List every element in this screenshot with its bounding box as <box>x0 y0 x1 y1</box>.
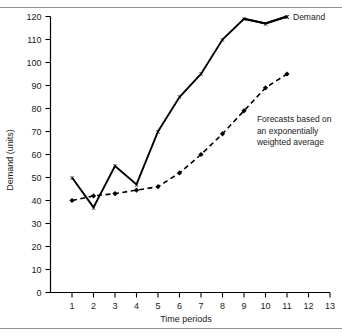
demand-point-marker: x <box>156 127 160 136</box>
x-tick-label: 7 <box>198 301 203 311</box>
demand-point-marker: x <box>92 203 96 212</box>
y-tick-label: 10 <box>31 265 41 275</box>
demand-point-marker: x <box>199 69 203 78</box>
demand-series-markers: xxxxxxxxxxx <box>70 12 289 212</box>
y-tick-label: 30 <box>31 219 41 229</box>
x-tick-label: 10 <box>260 301 270 311</box>
demand-forecast-line-chart: 0102030405060708090100110120 12345678910… <box>0 0 342 336</box>
x-tick-label: 4 <box>134 301 139 311</box>
forecast-point-marker <box>91 193 96 198</box>
x-tick-label: 13 <box>325 301 335 311</box>
demand-point-marker: x <box>135 180 139 189</box>
forecast-annotation-line-1: Forecasts based on <box>257 114 332 124</box>
y-tick-label: 110 <box>27 35 41 45</box>
x-tick-label: 6 <box>177 301 182 311</box>
x-tick-label: 1 <box>69 301 74 311</box>
y-tick-label: 70 <box>31 127 41 137</box>
chart-figure: 0102030405060708090100110120 12345678910… <box>0 0 342 336</box>
demand-point-marker: x <box>70 173 74 182</box>
x-tick-label: 11 <box>282 301 291 311</box>
y-axis-title: Demand (units) <box>5 129 15 191</box>
y-tick-label: 100 <box>26 58 41 68</box>
demand-point-marker: x <box>178 92 182 101</box>
forecast-annotation: Forecasts based on an exponentially weig… <box>256 114 332 147</box>
forecast-point-marker <box>69 198 74 203</box>
y-tick-label: 80 <box>31 104 41 114</box>
demand-point-marker: x <box>113 161 117 170</box>
x-tick-label: 12 <box>303 301 313 311</box>
x-axis-title: Time periods <box>160 314 212 324</box>
forecast-point-marker <box>112 191 117 196</box>
chart-legend: x Demand <box>244 12 325 24</box>
x-axis-ticks: 12345678910111213 <box>69 293 335 311</box>
y-tick-label: 90 <box>31 81 41 91</box>
y-tick-label: 60 <box>31 150 41 160</box>
y-tick-label: 40 <box>31 196 41 206</box>
x-tick-label: 8 <box>220 301 225 311</box>
y-tick-label: 50 <box>31 173 41 183</box>
x-tick-label: 5 <box>155 301 160 311</box>
y-tick-label: 20 <box>31 242 41 252</box>
demand-point-marker: x <box>221 35 225 44</box>
forecast-annotation-line-3: weighted average <box>256 137 324 147</box>
forecast-annotation-line-2: an exponentially <box>257 126 319 136</box>
y-axis-ticks: 0102030405060708090100110120 <box>26 12 50 298</box>
x-tick-label: 3 <box>112 301 117 311</box>
legend-demand-label: Demand <box>293 12 325 22</box>
legend-x-marker: x <box>285 12 289 21</box>
demand-series-line <box>72 17 287 208</box>
y-tick-label: 120 <box>26 12 41 22</box>
x-tick-label: 2 <box>91 301 96 311</box>
y-tick-label: 0 <box>36 288 41 298</box>
x-tick-label: 9 <box>241 301 246 311</box>
